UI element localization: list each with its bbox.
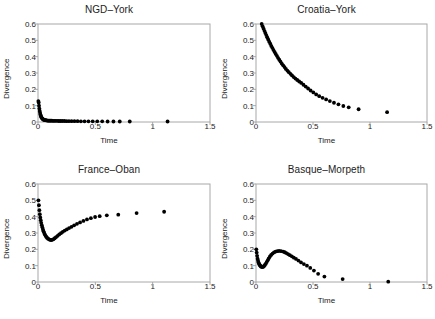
data-point: [100, 119, 104, 123]
x-axis-label: Time: [0, 296, 218, 305]
data-point: [305, 264, 309, 268]
plot-area: Divergence 00.10.20.30.40.50.6 00.511.5 …: [218, 18, 435, 136]
data-point: [162, 210, 166, 214]
panel-title: Croatia–York: [218, 4, 435, 15]
panel-title: NGD–York: [0, 4, 218, 15]
data-point: [255, 251, 259, 255]
data-point: [37, 203, 41, 207]
panel-croatia-york: Croatia–York Divergence 00.10.20.30.40.5…: [218, 0, 435, 160]
data-point: [312, 269, 316, 273]
scatter-plot: [218, 18, 435, 136]
data-point: [93, 215, 97, 219]
data-point: [91, 119, 95, 123]
data-point: [95, 119, 99, 123]
plot-frame: [256, 24, 427, 122]
x-axis-label: Time: [218, 136, 435, 145]
data-point: [78, 220, 82, 224]
panel-france-oban: France–Oban Divergence 00.10.20.30.40.50…: [0, 160, 218, 319]
data-point: [116, 213, 120, 217]
data-point: [324, 98, 328, 102]
panel-title: France–Oban: [0, 164, 218, 175]
data-point: [76, 119, 80, 123]
figure-grid: NGD–York Divergence 00.10.20.30.40.50.6 …: [0, 0, 435, 319]
data-point: [166, 120, 170, 124]
data-point: [328, 99, 332, 103]
data-point: [87, 119, 91, 123]
scatter-plot: [218, 178, 435, 296]
plot-area: Divergence 00.10.20.30.40.50.6 00.511.5 …: [218, 178, 435, 296]
panel-basque-morpeth: Basque–Morpeth Divergence 00.10.20.30.40…: [218, 160, 435, 319]
data-point: [89, 216, 93, 220]
data-point: [112, 120, 116, 124]
panel-title: Basque–Morpeth: [218, 164, 435, 175]
data-point: [128, 120, 132, 124]
data-point: [347, 105, 351, 109]
data-point: [341, 104, 345, 108]
data-point: [332, 101, 336, 105]
x-axis-label: Time: [218, 296, 435, 305]
data-point: [37, 208, 41, 212]
data-point: [79, 119, 83, 123]
data-point: [323, 275, 327, 279]
data-point: [37, 101, 41, 105]
data-point: [357, 107, 361, 111]
data-point: [98, 214, 102, 218]
plot-area: Divergence 00.10.20.30.40.50.6 00.511.5 …: [0, 178, 218, 296]
data-point: [82, 219, 86, 223]
data-point: [37, 198, 41, 202]
data-point: [106, 120, 110, 124]
scatter-plot: [0, 18, 218, 136]
data-point: [254, 247, 258, 251]
data-point: [105, 213, 109, 217]
data-point: [317, 94, 321, 98]
scatter-plot: [0, 178, 218, 296]
plot-frame: [256, 184, 427, 282]
panel-ngd-york: NGD–York Divergence 00.10.20.30.40.50.6 …: [0, 0, 218, 160]
data-point: [118, 120, 122, 124]
data-point: [386, 280, 390, 284]
plot-frame: [38, 24, 210, 122]
data-point: [308, 266, 312, 270]
data-point: [85, 218, 89, 222]
data-point: [135, 211, 139, 215]
data-point: [341, 277, 345, 281]
data-point: [83, 119, 87, 123]
data-point: [321, 96, 325, 100]
plot-area: Divergence 00.10.20.30.40.50.6 00.511.5 …: [0, 18, 218, 136]
data-point: [337, 102, 341, 106]
x-axis-label: Time: [0, 136, 218, 145]
data-point: [316, 272, 320, 276]
data-point: [385, 110, 389, 114]
data-point: [38, 212, 42, 216]
